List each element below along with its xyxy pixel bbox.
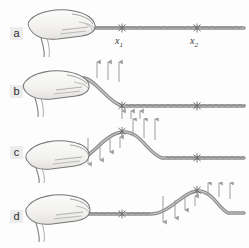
rope-c — [78, 132, 244, 160]
hand-b — [23, 71, 89, 117]
panel-d-graphic — [0, 182, 249, 248]
panel-c: c — [0, 118, 249, 184]
panel-b: b — [0, 58, 249, 120]
panel-c-graphic — [0, 118, 249, 184]
hand-c — [26, 141, 89, 183]
panel-b-graphic — [0, 58, 249, 120]
wave-pulse-figure: a — [0, 0, 249, 248]
rope-b — [84, 78, 246, 106]
panel-a-graphic — [0, 0, 249, 62]
x2-label: x2 — [190, 35, 198, 49]
x1-label: x1 — [115, 35, 123, 49]
rope-a — [90, 27, 244, 28]
arrow-group-up-above-hand — [97, 62, 119, 82]
panel-a: a — [0, 0, 249, 62]
hand-a — [28, 10, 95, 57]
panel-d: d — [0, 182, 249, 248]
hand-d — [26, 195, 90, 242]
